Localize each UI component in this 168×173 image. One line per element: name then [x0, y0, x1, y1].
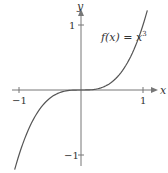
y-tick-label-neg1: −1 — [64, 150, 79, 161]
annotation-exponent: 3 — [142, 30, 146, 38]
x-axis-label: x — [160, 84, 167, 97]
x-tick-label-1: 1 — [140, 95, 146, 106]
cubic-function-plot: x y −1 1 1 −1 f(x) = x3 — [0, 0, 168, 173]
function-annotation: f(x) = x3 — [100, 30, 147, 44]
x-axis-arrow-icon — [151, 87, 158, 93]
annotation-lhs: f(x) = x — [100, 31, 143, 44]
x-tick-label-neg1: −1 — [12, 95, 27, 106]
y-axis-label: y — [76, 0, 84, 13]
y-tick-label-1: 1 — [69, 20, 75, 31]
